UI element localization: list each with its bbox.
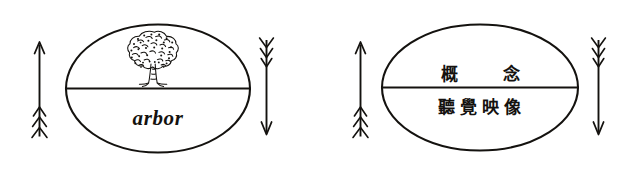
japanese-signified-label: 概 念 <box>441 64 534 84</box>
figure-root: arbor <box>0 0 626 172</box>
latin-signifier-label: arbor <box>133 106 184 130</box>
japanese-signifier-label: 聽覺映像 <box>438 97 526 117</box>
tree-drawing <box>128 31 179 86</box>
latin-panel-right-down-arrow <box>260 38 274 135</box>
japanese-panel-right-down-arrow <box>592 38 606 135</box>
latin-panel: arbor <box>32 25 273 153</box>
latin-panel-left-up-arrow <box>32 42 47 138</box>
sign-diagram-figure: arbor <box>0 0 626 172</box>
japanese-panel-left-up-arrow <box>353 42 368 138</box>
japanese-panel: 概 念 聽覺映像 <box>353 25 605 151</box>
